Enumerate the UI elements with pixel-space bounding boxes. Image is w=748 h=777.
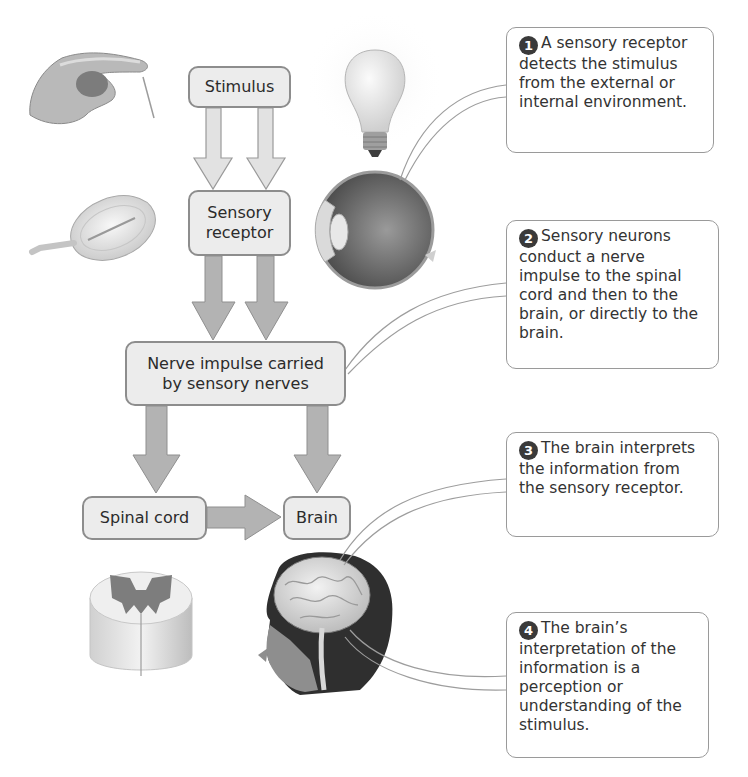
nerve-impulse-label-line1: Nerve impulse carried — [147, 354, 324, 374]
receptor-to-nerve-arrows — [192, 256, 288, 340]
spinal-cord-label: Spinal cord — [100, 508, 189, 528]
sensory-receptor-label-line1: Sensory — [207, 203, 271, 223]
step-number-badge: 3 — [519, 441, 538, 460]
callout-3: 3The brain interprets the information fr… — [506, 432, 719, 537]
sensory-receptor-label-line2: receptor — [206, 223, 274, 243]
callout-4: 4The brain’s interpretation of the infor… — [506, 612, 709, 758]
stimulus-label: Stimulus — [205, 77, 275, 97]
pacinian-corpuscle-illustration — [32, 184, 165, 273]
step-number-badge: 1 — [519, 36, 538, 55]
spinal-cord-node: Spinal cord — [82, 496, 207, 540]
spinal-to-brain-arrow — [207, 495, 281, 540]
hand-pin-illustration — [30, 53, 154, 124]
head-with-brain-illustration — [258, 552, 393, 695]
brain-label: Brain — [296, 508, 338, 528]
spinal-cord-section-illustration — [90, 572, 192, 676]
brain-node: Brain — [283, 496, 351, 540]
nerve-impulse-node: Nerve impulse carried by sensory nerves — [125, 341, 346, 406]
stimulus-node: Stimulus — [188, 66, 291, 108]
callout-2-text: Sensory neurons conduct a nerve impulse … — [519, 227, 698, 342]
light-bulb-illustration — [305, 10, 445, 157]
step-number-badge: 4 — [519, 621, 538, 640]
eye-cross-section-illustration — [315, 172, 436, 288]
stimulus-to-receptor-arrows — [194, 108, 285, 189]
nerve-to-targets-arrows — [133, 406, 341, 493]
sensory-receptor-node: Sensory receptor — [188, 190, 291, 256]
callout-2: 2Sensory neurons conduct a nerve impulse… — [506, 220, 719, 369]
callout-3-text: The brain interprets the information fro… — [519, 439, 695, 497]
callout-1: 1A sensory receptor detects the stimulus… — [506, 27, 714, 153]
callout-4-text: The brain’s interpretation of the inform… — [519, 619, 682, 734]
nerve-impulse-label-line2: by sensory nerves — [162, 374, 309, 394]
step-number-badge: 2 — [519, 229, 538, 248]
callout-1-text: A sensory receptor detects the stimulus … — [519, 34, 687, 111]
